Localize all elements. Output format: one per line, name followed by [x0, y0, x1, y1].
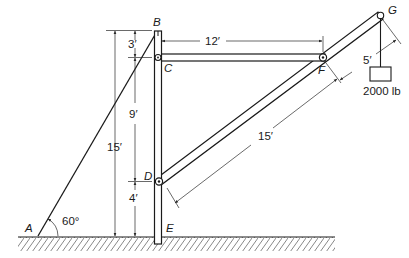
- cable-AB: [38, 33, 156, 236]
- label-E: E: [166, 222, 174, 234]
- pin-F: [319, 54, 326, 61]
- label-D: D: [144, 170, 152, 182]
- label-angle-A: 60°: [62, 215, 79, 227]
- angle-arc-A: [48, 219, 58, 236]
- label-dim-CF: 12′: [205, 35, 220, 47]
- label-dim-total: 15′: [107, 141, 122, 153]
- label-dim-DF: 15′: [258, 130, 273, 142]
- label-dim-FG: 5′: [363, 54, 372, 66]
- ground: [18, 237, 335, 251]
- label-dim-BC: 3′: [128, 38, 137, 50]
- label-G: G: [388, 4, 397, 16]
- crane-frame-diagram: B C D E F G A 3′ 9′ 4′ 15′ 12′ 15′ 5′ 60…: [0, 0, 409, 258]
- pin-D: [155, 178, 162, 185]
- ground-hatching: [18, 237, 335, 251]
- label-load: 2000 lb: [363, 85, 401, 97]
- label-C: C: [164, 62, 173, 74]
- member-CF: [158, 54, 325, 61]
- label-dim-DE: 4′: [129, 192, 138, 204]
- post-BE: [155, 31, 162, 244]
- member-DG: [157, 12, 383, 185]
- dimension-DF: [167, 63, 341, 208]
- dimension-total-height: [106, 31, 152, 237]
- load-box: [370, 67, 391, 81]
- label-dim-CD: 9′: [129, 108, 138, 120]
- label-B: B: [153, 16, 161, 28]
- label-A: A: [24, 222, 33, 234]
- dimension-CF: [162, 36, 323, 52]
- pin-C: [155, 55, 161, 61]
- pin-G: [377, 12, 383, 18]
- label-F: F: [318, 64, 326, 76]
